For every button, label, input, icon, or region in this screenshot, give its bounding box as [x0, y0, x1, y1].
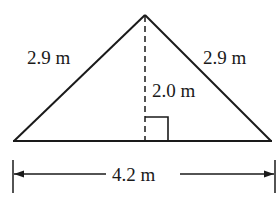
left-side-label: 2.9 m — [27, 47, 71, 68]
right-side — [145, 15, 271, 141]
right-side-label: 2.9 m — [203, 47, 247, 68]
height-label: 2.0 m — [152, 80, 196, 101]
triangle-diagram: 2.9 m 2.9 m 2.0 m 4.2 m — [0, 0, 278, 200]
base-label: 4.2 m — [112, 164, 156, 185]
triangle-outline — [13, 15, 272, 141]
arrowhead-left-icon — [14, 171, 24, 178]
left-side — [14, 15, 145, 141]
right-angle-marker — [145, 117, 168, 141]
arrowhead-right-icon — [264, 171, 274, 178]
